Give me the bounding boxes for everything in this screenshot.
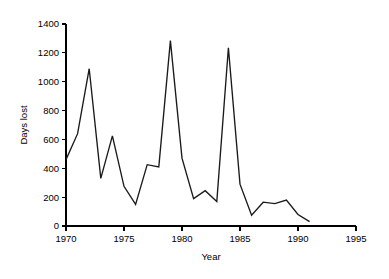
chart-container: 0200400600800100012001400 19701975198019… bbox=[0, 0, 389, 279]
y-axis: 0200400600800100012001400 bbox=[38, 18, 66, 231]
line-chart: 0200400600800100012001400 19701975198019… bbox=[0, 0, 389, 279]
y-tick-label: 400 bbox=[43, 163, 59, 174]
y-tick-label: 800 bbox=[43, 105, 59, 116]
x-tick-label: 1995 bbox=[345, 233, 366, 244]
x-tick-label: 1970 bbox=[55, 233, 76, 244]
x-axis-title: Year bbox=[201, 251, 220, 262]
data-line-0 bbox=[66, 41, 310, 222]
x-tick-label: 1975 bbox=[113, 233, 134, 244]
y-axis-title: Days lost bbox=[18, 105, 29, 144]
x-tick-label: 1980 bbox=[171, 233, 192, 244]
y-tick-label: 200 bbox=[43, 192, 59, 203]
x-tick-label: 1985 bbox=[229, 233, 250, 244]
data-series-group bbox=[66, 41, 310, 222]
y-tick-label: 1200 bbox=[38, 47, 59, 58]
x-tick-label: 1990 bbox=[287, 233, 308, 244]
y-tick-label: 600 bbox=[43, 134, 59, 145]
y-tick-label: 0 bbox=[54, 220, 59, 231]
y-tick-label: 1000 bbox=[38, 76, 59, 87]
x-axis: 197019751980198519901995 bbox=[55, 226, 366, 244]
y-tick-label: 1400 bbox=[38, 18, 59, 29]
